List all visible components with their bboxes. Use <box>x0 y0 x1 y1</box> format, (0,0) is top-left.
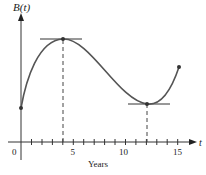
min-point <box>145 102 149 106</box>
x-axis-title: Years <box>88 159 109 169</box>
max-point <box>61 37 65 41</box>
start-point <box>19 106 23 110</box>
curve-b-of-t <box>21 39 179 108</box>
x-axis-arrow-icon <box>189 139 197 145</box>
end-point <box>177 65 181 69</box>
tick-label-0: 0 <box>12 147 17 157</box>
x-axis-var-label: t <box>199 137 202 148</box>
chart: B(t) t 0 5 10 15 Years <box>0 0 206 175</box>
tick-label-15: 15 <box>173 147 183 157</box>
tick-label-10: 10 <box>119 147 129 157</box>
y-axis-label: B(t) <box>13 1 30 14</box>
y-axis-arrow-icon <box>18 13 24 21</box>
tick-label-5: 5 <box>71 147 76 157</box>
